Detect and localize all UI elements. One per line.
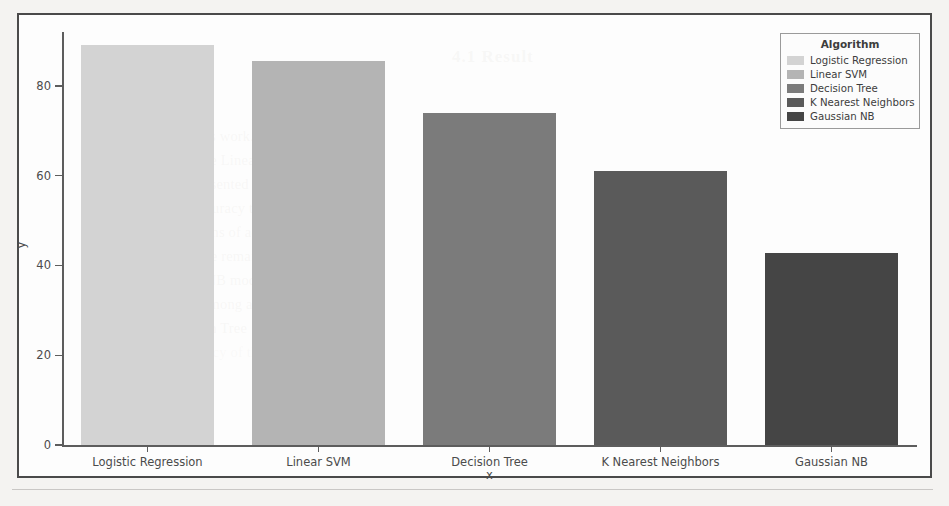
legend-entry-label: Linear SVM: [810, 69, 867, 80]
y-axis-label: y: [14, 242, 28, 249]
x-tick-label: Linear SVM: [286, 455, 351, 469]
legend-swatch-icon: [787, 84, 804, 93]
legend-entry: K Nearest Neighbors: [787, 95, 913, 109]
y-tick-mark: [55, 85, 62, 86]
legend-entry-label: Decision Tree: [810, 83, 878, 94]
x-tick-label: Decision Tree: [451, 455, 528, 469]
legend-title: Algorithm: [787, 38, 913, 50]
legend-entry-label: Logistic Regression: [810, 55, 908, 66]
figure-frame: 020406080 Logistic RegressionLinear SVMD…: [17, 13, 932, 478]
x-tick-mark: [660, 446, 661, 452]
legend-swatch-icon: [787, 112, 804, 121]
y-tick-mark: [55, 175, 62, 176]
legend-entry: Linear SVM: [787, 67, 913, 81]
bar-k-nearest-neighbors: [594, 171, 727, 445]
legend-entry-label: K Nearest Neighbors: [810, 97, 915, 108]
legend-entry: Gaussian NB: [787, 109, 913, 123]
x-tick-label: Gaussian NB: [795, 455, 868, 469]
y-tick-label: 80: [25, 79, 51, 93]
legend-swatch-icon: [787, 98, 804, 107]
legend-swatch-icon: [787, 70, 804, 79]
bar-logistic-regression: [81, 45, 214, 445]
scanned-page-background: 4.1 Result considered in this work. The …: [0, 0, 949, 506]
legend-entry-list: Logistic RegressionLinear SVMDecision Tr…: [787, 53, 913, 123]
bar-gaussian-nb: [765, 253, 898, 445]
x-axis-label: x: [486, 468, 493, 482]
x-tick-mark: [147, 446, 148, 452]
legend-entry: Logistic Regression: [787, 53, 913, 67]
legend-entry: Decision Tree: [787, 81, 913, 95]
bar-linear-svm: [252, 61, 385, 445]
chart-legend: Algorithm Logistic RegressionLinear SVMD…: [780, 33, 920, 129]
y-tick-mark: [55, 444, 62, 445]
x-tick-mark: [489, 446, 490, 452]
legend-swatch-icon: [787, 56, 804, 65]
page-rule: [12, 489, 933, 490]
x-tick-mark: [318, 446, 319, 452]
y-tick-label: 20: [25, 348, 51, 362]
x-tick-mark: [831, 446, 832, 452]
x-tick-label: Logistic Regression: [92, 455, 202, 469]
y-tick-label: 0: [25, 438, 51, 452]
y-tick-label: 60: [25, 169, 51, 183]
y-tick-label: 40: [25, 258, 51, 272]
y-tick-mark: [55, 355, 62, 356]
chart-axes: 020406080 Logistic RegressionLinear SVMD…: [19, 15, 934, 480]
legend-entry-label: Gaussian NB: [810, 111, 875, 122]
y-tick-mark: [55, 265, 62, 266]
bar-decision-tree: [423, 113, 556, 445]
x-tick-label: K Nearest Neighbors: [601, 455, 719, 469]
